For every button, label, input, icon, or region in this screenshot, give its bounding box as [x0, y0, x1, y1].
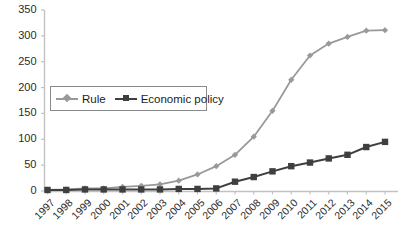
data-point-marker [194, 186, 200, 192]
data-point-marker [176, 186, 182, 192]
y-tick-label: 150 [7, 107, 37, 118]
data-point-marker [119, 186, 125, 192]
y-tick-label: 350 [7, 4, 37, 15]
data-point-marker [363, 144, 369, 150]
y-tick-label: 300 [7, 30, 37, 41]
legend-label-rule: Rule [82, 93, 106, 105]
data-point-marker [157, 186, 163, 192]
data-point-marker [326, 155, 332, 161]
y-tick-label: 0 [7, 185, 37, 196]
line-chart: 050100150200250300350 199719981999200020… [0, 0, 410, 235]
data-point-marker [213, 185, 219, 191]
data-point-marker [344, 34, 350, 40]
data-point-marker [82, 186, 88, 192]
data-point-marker [344, 152, 350, 158]
data-point-marker [138, 186, 144, 192]
legend-marker-square-icon [115, 93, 137, 104]
data-point-marker [176, 178, 182, 184]
chart-legend: Rule Economic policy [50, 86, 207, 111]
data-point-marker [251, 174, 257, 180]
data-point-marker [194, 171, 200, 177]
data-point-marker [288, 163, 294, 169]
data-point-marker [363, 28, 369, 34]
legend-item-rule[interactable]: Rule [56, 93, 106, 105]
y-tick-label: 250 [7, 56, 37, 67]
y-tick-label: 50 [7, 159, 37, 170]
data-point-marker [44, 187, 50, 193]
y-tick-label: 100 [7, 133, 37, 144]
y-tick-label: 200 [7, 82, 37, 93]
legend-item-economic-policy[interactable]: Economic policy [115, 93, 224, 105]
data-point-marker [382, 139, 388, 145]
data-point-marker [63, 187, 69, 193]
data-point-marker [101, 186, 107, 192]
data-point-marker [269, 168, 275, 174]
data-point-marker [232, 178, 238, 184]
data-point-marker [307, 159, 313, 165]
legend-label-economic-policy: Economic policy [141, 93, 224, 105]
legend-marker-diamond-icon [56, 93, 78, 104]
data-point-marker [382, 27, 388, 33]
